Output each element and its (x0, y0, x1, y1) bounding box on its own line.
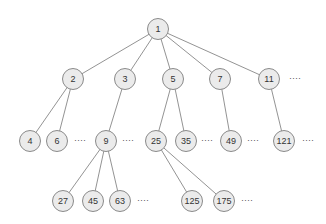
tree-node-7: 7 (209, 68, 231, 90)
ellipsis-more-e-63: ···· (137, 195, 149, 205)
tree-node-27: 27 (52, 190, 74, 212)
tree-node-2: 2 (62, 68, 84, 90)
ellipsis-more-e-121: ···· (302, 135, 314, 145)
tree-node-5: 5 (162, 68, 184, 90)
tree-node-49: 49 (220, 130, 242, 152)
tree-node-6: 6 (46, 130, 68, 152)
tree-node-125: 125 (181, 190, 203, 212)
tree-node-9: 9 (95, 130, 117, 152)
tree-node-175: 175 (213, 190, 235, 212)
tree-node-1: 1 (147, 18, 169, 40)
ellipsis-more-e-6: ···· (74, 135, 86, 145)
tree-node-63: 63 (109, 190, 131, 212)
tree-node-25: 25 (145, 130, 167, 152)
tree-node-11: 11 (258, 68, 280, 90)
ellipsis-more-e-l2: ···· (289, 73, 301, 83)
tree-node-3: 3 (114, 68, 136, 90)
ellipsis-more-e-9: ···· (122, 135, 134, 145)
tree-node-45: 45 (82, 190, 104, 212)
tree-node-35: 35 (175, 130, 197, 152)
ellipsis-more-e-175: ···· (241, 195, 253, 205)
tree-node-121: 121 (273, 130, 295, 152)
tree-node-4: 4 (19, 130, 41, 152)
ellipsis-more-e-49: ···· (247, 135, 259, 145)
ellipsis-more-e-35: ···· (201, 135, 213, 145)
tree-diagram: 1235711469253549121274563125175·········… (0, 0, 326, 224)
